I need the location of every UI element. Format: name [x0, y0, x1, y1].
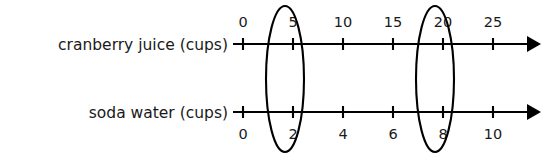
row-label-soda-water: soda water (cups): [89, 104, 228, 122]
tick-label: 25: [484, 14, 502, 30]
row-label-cranberry-juice: cranberry juice (cups): [58, 36, 228, 54]
arrow-head-icon-cranberry-juice: [527, 36, 541, 52]
tick-label: 0: [238, 14, 247, 30]
number-line-soda-water: soda water (cups) 0 2 4 6 8 10: [89, 104, 541, 142]
tick-labels-soda-water: 0 2 4 6 8 10: [238, 126, 502, 142]
double-number-line-diagram: cranberry juice (cups) 0 5 10 15 20 25 s…: [0, 0, 544, 167]
tick-label: 0: [238, 126, 247, 142]
tick-labels-cranberry-juice: 0 5 10 15 20 25: [238, 14, 502, 30]
tick-label: 6: [388, 126, 397, 142]
pair-highlight-ellipse-5-2: [266, 6, 304, 152]
tick-label: 15: [384, 14, 402, 30]
tick-label: 10: [334, 14, 352, 30]
tick-label: 10: [484, 126, 502, 142]
tick-label: 4: [338, 126, 347, 142]
arrow-head-icon-soda-water: [527, 104, 541, 120]
